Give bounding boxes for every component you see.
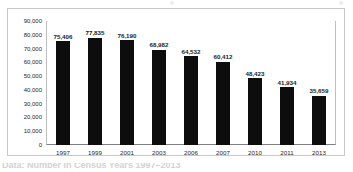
bar-value-label: 48,423 bbox=[246, 70, 265, 77]
bar-value-label: 64,532 bbox=[182, 48, 201, 55]
bar-value-label: 60,412 bbox=[214, 53, 233, 60]
y-axis-tick-label: 40,000 bbox=[24, 87, 42, 93]
bar bbox=[312, 96, 327, 145]
bar-value-label: 41,934 bbox=[278, 79, 297, 86]
bar-value-label: 68,982 bbox=[150, 41, 169, 48]
bar bbox=[248, 78, 263, 145]
bar bbox=[280, 87, 295, 145]
chart-figure: 90,00080,00070,00060,00050,00040,00030,0… bbox=[0, 0, 353, 172]
x-axis-tick-label: 2003 bbox=[152, 149, 166, 156]
bar bbox=[216, 62, 231, 145]
y-axis: 90,00080,00070,00060,00050,00040,00030,0… bbox=[8, 21, 44, 145]
bar-slot: 77,835 bbox=[88, 21, 103, 145]
bar bbox=[184, 56, 199, 145]
bar-slot: 41,934 bbox=[280, 21, 295, 145]
y-axis-tick-label: 50,000 bbox=[24, 73, 42, 79]
bar-slot: 68,982 bbox=[152, 21, 167, 145]
y-axis-tick-label: 20,000 bbox=[24, 114, 42, 120]
bar-value-label: 35,659 bbox=[310, 87, 329, 94]
y-axis-tick-label: 0 bbox=[39, 142, 42, 148]
x-axis: 199719992001200320062007201020112013 bbox=[47, 149, 335, 161]
x-axis-tick-label: 2011 bbox=[280, 149, 293, 156]
x-axis-tick-label: 2010 bbox=[248, 149, 262, 156]
x-axis-tick-label: 2006 bbox=[184, 149, 198, 156]
x-axis-tick-label: 2007 bbox=[216, 149, 230, 156]
bar-series: 75,40677,83576,19068,98264,53260,41248,4… bbox=[47, 21, 335, 145]
bar-slot: 48,423 bbox=[248, 21, 263, 145]
y-axis-tick-label: 60,000 bbox=[24, 59, 42, 65]
top-artifact-dot bbox=[339, 1, 343, 5]
bar-value-label: 77,835 bbox=[86, 29, 105, 36]
bar bbox=[88, 38, 103, 145]
x-axis-tick-label: 2013 bbox=[312, 149, 326, 156]
chart-frame: 90,00080,00070,00060,00050,00040,00030,0… bbox=[7, 8, 345, 156]
y-axis-tick-label: 10,000 bbox=[24, 128, 42, 134]
top-edge-artifacts bbox=[0, 0, 353, 7]
bar-slot: 60,412 bbox=[216, 21, 231, 145]
bar bbox=[56, 41, 71, 145]
bar-slot: 35,659 bbox=[312, 21, 327, 145]
top-artifact-dot bbox=[170, 1, 174, 5]
bar-slot: 64,532 bbox=[184, 21, 199, 145]
footer-caption-text: Data: Number in Census Years 1997–2013 bbox=[2, 163, 180, 170]
bar bbox=[120, 40, 135, 145]
y-axis-tick-label: 80,000 bbox=[24, 32, 42, 38]
bar bbox=[152, 50, 167, 145]
footer-caption: Data: Number in Census Years 1997–2013 bbox=[0, 163, 353, 172]
x-axis-tick-label: 1999 bbox=[88, 149, 102, 156]
y-axis-tick-label: 30,000 bbox=[24, 101, 42, 107]
y-axis-tick-label: 70,000 bbox=[24, 46, 42, 52]
bar-slot: 76,190 bbox=[120, 21, 135, 145]
x-axis-tick-label: 1997 bbox=[56, 149, 70, 156]
x-axis-tick-label: 2001 bbox=[120, 149, 134, 156]
bar-value-label: 76,190 bbox=[118, 32, 137, 39]
y-axis-tick-label: 90,000 bbox=[24, 18, 42, 24]
bar-value-label: 75,406 bbox=[54, 33, 73, 40]
bar-slot: 75,406 bbox=[56, 21, 71, 145]
